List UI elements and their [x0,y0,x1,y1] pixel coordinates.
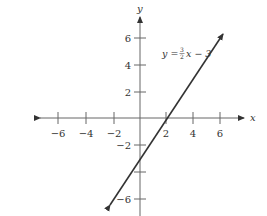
x-axis-label: x [250,112,256,123]
svg-text:2: 2 [180,53,184,60]
x-tick-label: −4 [79,128,94,139]
svg-text:x − 3: x − 3 [186,48,211,59]
x-tick-label: −2 [107,128,122,139]
y-tick-label: −6 [116,194,131,205]
x-tick-label: 2 [163,128,169,139]
y-tick-label: −2 [116,140,131,151]
equation-label: y = 3 2 x − 3 [161,46,211,60]
x-tick-label: 4 [190,128,196,139]
svg-text:3: 3 [180,46,184,53]
x-tick-label: 6 [217,128,223,139]
svg-text:y =: y = [161,48,178,59]
y-tick-label: 4 [125,60,131,71]
y-axis-label: y [136,3,143,14]
y-tick-label: 6 [125,33,131,44]
y-tick-label: 2 [125,87,131,98]
coordinate-plane: −6 −4 −2 2 4 6 6 4 2 −2 −6 x y y = 3 2 x… [0,0,267,216]
x-tick-label: −6 [51,128,66,139]
